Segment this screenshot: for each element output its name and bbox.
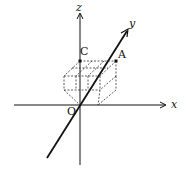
origin-label: O [67,106,76,117]
axes-and-box [0,0,190,180]
x-axis-label: x [171,99,177,110]
diagram-canvas: z y x C A O [0,0,190,180]
dashed-box [64,61,116,105]
point-A-label: A [118,49,126,60]
point-C-label: C [80,46,88,57]
z-axis-label: z [76,2,82,13]
y-axis-label: y [129,18,135,29]
point-C-marker [79,60,82,63]
